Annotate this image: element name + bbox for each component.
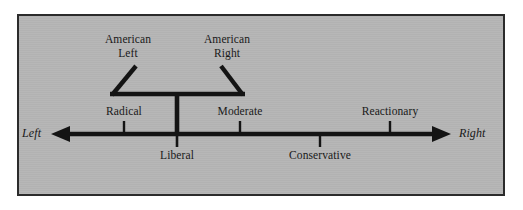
label-radical: Radical [106, 105, 142, 118]
bracket-right-diagonal [221, 66, 243, 95]
figure-root: Left Right Radical Moderate Reactionary … [0, 0, 523, 210]
label-american-right: American Right [204, 33, 250, 60]
bracket-left-diagonal [112, 66, 136, 95]
label-conservative: Conservative [289, 149, 351, 162]
label-american-right-line2: Right [204, 47, 250, 61]
label-american-left-line1: American [105, 33, 151, 47]
left-arrowhead [51, 126, 70, 142]
label-reactionary: Reactionary [362, 105, 419, 118]
label-moderate: Moderate [218, 105, 263, 118]
label-american-right-line1: American [204, 33, 250, 47]
label-american-left: American Left [105, 33, 151, 60]
label-american-left-line2: Left [105, 47, 151, 61]
label-liberal: Liberal [160, 149, 194, 162]
right-arrowhead [432, 126, 451, 142]
axis-label-right: Right [459, 127, 486, 140]
axis-label-left: Left [22, 127, 41, 140]
